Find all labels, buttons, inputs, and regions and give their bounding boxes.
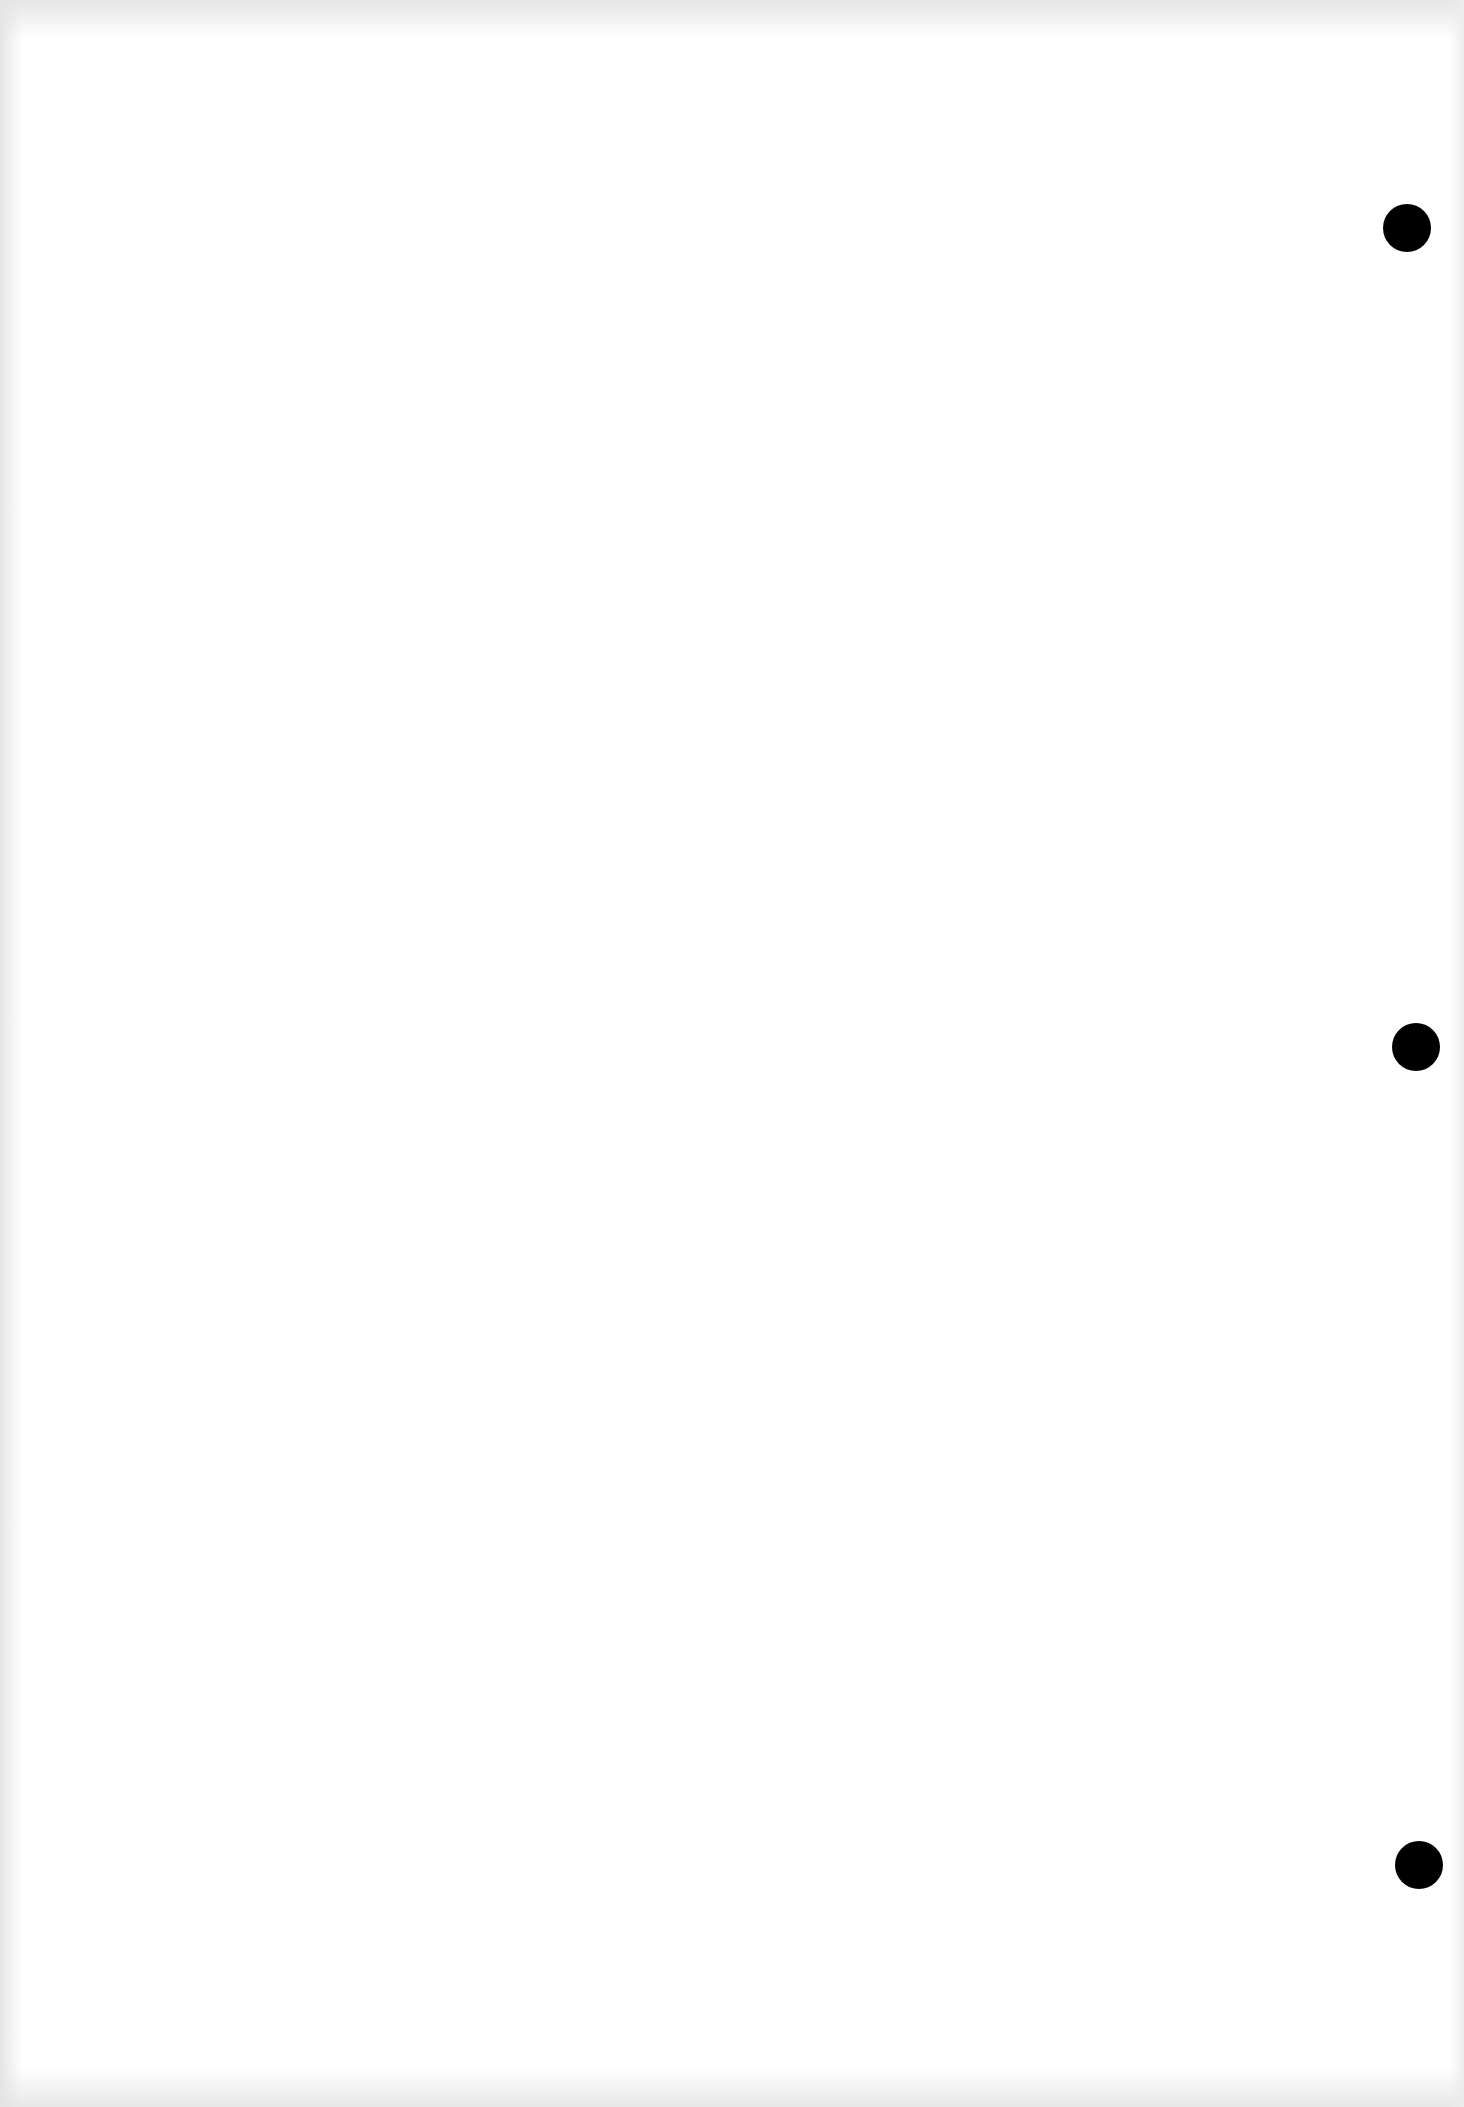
- punch-hole-1: [1383, 204, 1431, 252]
- punch-hole-3: [1395, 1841, 1443, 1889]
- scan-shadow-right: [1450, 0, 1464, 2107]
- scan-shadow-bottom: [0, 2067, 1464, 2107]
- scan-shadow-top: [0, 0, 1464, 40]
- scanned-page: [0, 0, 1464, 2107]
- scan-shadow-left: [0, 0, 22, 2107]
- punch-hole-2: [1392, 1023, 1440, 1071]
